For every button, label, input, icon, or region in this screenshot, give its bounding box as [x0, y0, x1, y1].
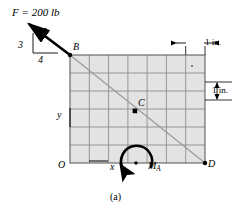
point-C-marker	[133, 109, 138, 114]
point-B-label: B	[73, 42, 79, 52]
cell-dot-marker	[191, 65, 193, 67]
figure-caption: (a)	[110, 192, 121, 202]
slope-hypotenuse-label: 5	[42, 27, 47, 37]
dimension-right-label: 1 in.	[212, 86, 228, 95]
force-vector-arrow	[29, 24, 70, 55]
diagram-canvas	[0, 0, 237, 213]
point-D-marker	[203, 161, 207, 165]
axis-x-label: x	[110, 162, 114, 172]
point-A-marker	[134, 161, 137, 164]
moment-label: MA	[148, 161, 161, 173]
point-C-label: C	[138, 98, 145, 108]
figure-container: F = 200 lb 5 3 4 B C D O x y MA 1 in. 1 …	[0, 0, 237, 213]
slope-vertical-label: 3	[18, 40, 23, 50]
point-B-marker	[68, 53, 72, 57]
dimension-top-label: 1 in.	[205, 38, 221, 47]
point-O-label: O	[58, 160, 65, 170]
axis-y-label: y	[57, 110, 61, 120]
force-label: F = 200 lb	[12, 7, 59, 18]
point-D-label: D	[208, 159, 215, 169]
moment-subscript: A	[156, 165, 160, 173]
slope-horizontal-label: 4	[38, 55, 43, 65]
